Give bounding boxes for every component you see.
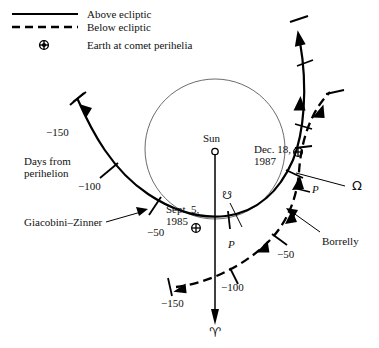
earth-marker-dec-1987 <box>294 148 303 157</box>
vernal-equinox-symbol: ♈ <box>209 327 221 339</box>
days-from-perihelion-line2: perihelion <box>24 167 69 179</box>
sun-marker <box>212 148 218 154</box>
gz-tick-label-minus150: −150 <box>46 126 69 138</box>
bo-tick-label-minus150: −150 <box>161 297 184 309</box>
perihelion-label-giacobini-zinner: P <box>228 238 235 250</box>
gz-tick-label-minus50: −50 <box>147 226 164 238</box>
ascending-node-symbol: Ω <box>352 180 362 192</box>
borrelly-label: Borrelly <box>322 235 359 247</box>
perihelion-label-borrelly: P <box>312 183 319 195</box>
legend-label-earth-at-perihelia: Earth at comet perihelia <box>87 39 192 52</box>
legend-swatch-earth-symbol <box>40 41 49 50</box>
giacobini-zinner-label: Giacobini–Zinner <box>24 216 102 228</box>
earth-date-dec-1987-line1: Dec. 18, <box>254 143 291 155</box>
descending-node-symbol: ☋ <box>222 190 232 202</box>
figure-canvas: Above ecliptic Below ecliptic Earth at c… <box>0 0 379 348</box>
earth-marker-sept-1985 <box>192 224 201 233</box>
legend-label-below-ecliptic: Below ecliptic <box>87 21 151 34</box>
legend-label-above-ecliptic: Above ecliptic <box>87 8 151 21</box>
days-from-perihelion-line1: Days from <box>24 155 71 167</box>
sun-label: Sun <box>203 132 220 144</box>
gz-tick-label-minus100: −100 <box>78 180 101 192</box>
earth-date-sept-1985-line2: 1985 <box>166 215 188 227</box>
vernal-equinox-axis <box>211 154 219 325</box>
earth-date-dec-1987-line2: 1987 <box>254 155 276 167</box>
earth-date-sept-1985-line1: Sept. 5, <box>166 203 199 215</box>
bo-tick-label-minus50: −50 <box>277 248 294 260</box>
ascending-node-leader <box>296 173 345 186</box>
giacobini-zinner-leader <box>106 207 148 222</box>
bo-tick-label-minus100: −100 <box>221 281 244 293</box>
